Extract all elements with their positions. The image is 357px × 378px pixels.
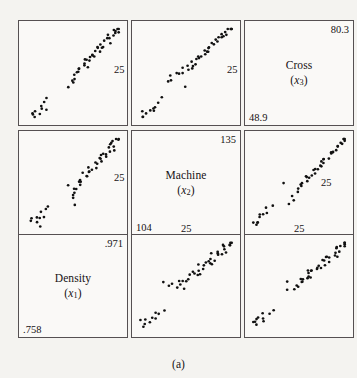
diagonal-panel-machine[interactable]: 135 Machine (x2) 104 <box>131 130 241 236</box>
data-point <box>320 160 323 163</box>
data-point <box>226 28 229 31</box>
data-point <box>301 280 304 283</box>
data-point <box>343 242 346 245</box>
data-point <box>36 221 39 224</box>
data-point <box>335 149 338 152</box>
data-point <box>45 97 48 100</box>
scatter-points-cross-density <box>19 21 127 125</box>
machine-max-tick: 135 <box>220 134 236 145</box>
data-point <box>154 312 157 315</box>
data-point <box>73 78 76 81</box>
diagonal-panel-density[interactable]: .971 Density (x1) .758 <box>18 234 128 338</box>
data-point <box>162 281 165 284</box>
data-point <box>153 109 156 112</box>
figure-caption: (a) <box>0 358 357 370</box>
data-point <box>252 321 255 324</box>
data-point <box>178 280 181 283</box>
data-point <box>320 267 323 270</box>
data-point <box>157 101 160 104</box>
density-max-tick: .971 <box>105 238 123 249</box>
data-point <box>78 67 81 70</box>
count-tick-row3-col2: 25 <box>181 223 192 234</box>
data-point <box>96 162 99 165</box>
count-tick-row1-col2: 25 <box>227 64 238 75</box>
data-point <box>262 213 265 216</box>
data-point <box>170 79 173 82</box>
data-point <box>175 72 178 75</box>
data-point <box>87 66 90 69</box>
data-point <box>89 56 92 59</box>
machine-min-tick: 104 <box>136 222 152 233</box>
data-point <box>103 39 106 42</box>
splom-grid: 80.3 Cross (x3) 48.9 135 Machine (x2) 10… <box>18 20 339 338</box>
data-point <box>83 64 86 67</box>
data-point <box>339 245 342 248</box>
data-point <box>197 263 200 266</box>
data-point <box>343 245 346 248</box>
data-point <box>257 316 260 319</box>
data-point <box>117 138 120 141</box>
data-point <box>310 174 313 177</box>
data-point <box>335 246 338 249</box>
data-point <box>43 216 46 219</box>
data-point <box>202 268 205 271</box>
data-point <box>224 31 227 34</box>
data-point <box>99 50 102 53</box>
data-point <box>305 175 308 178</box>
data-point <box>115 138 118 141</box>
data-point <box>149 321 152 324</box>
data-point <box>88 170 91 173</box>
data-point <box>196 274 199 277</box>
panel-cross-vs-density[interactable] <box>18 20 128 126</box>
data-point <box>343 138 346 141</box>
data-point <box>221 253 224 256</box>
data-point <box>181 67 184 70</box>
data-point <box>79 180 82 183</box>
data-point <box>109 42 112 45</box>
data-point <box>141 110 144 113</box>
data-point <box>184 85 187 88</box>
panel-machine-vs-density[interactable] <box>18 130 128 236</box>
data-point <box>195 58 198 61</box>
panel-density-vs-machine[interactable] <box>131 234 241 338</box>
data-point <box>199 273 202 276</box>
data-point <box>225 251 228 254</box>
diagonal-panel-cross[interactable]: 80.3 Cross (x3) 48.9 <box>244 20 354 126</box>
data-point <box>331 151 334 154</box>
data-point <box>205 261 208 264</box>
data-point <box>197 269 200 272</box>
data-point <box>43 101 46 104</box>
data-point <box>190 60 193 63</box>
count-tick-row3-col3: 25 <box>294 223 305 234</box>
data-point <box>297 187 300 190</box>
data-point <box>112 145 115 148</box>
data-point <box>151 317 154 320</box>
data-point <box>157 313 160 316</box>
data-point <box>67 184 70 187</box>
data-point <box>40 105 43 108</box>
data-point <box>72 197 75 200</box>
data-point <box>252 221 255 224</box>
data-point <box>262 317 265 320</box>
scatter-points-machine-cross <box>245 131 353 235</box>
data-point <box>295 284 298 287</box>
data-point <box>117 31 120 34</box>
panel-cross-vs-machine[interactable] <box>131 20 241 126</box>
data-point <box>142 325 145 328</box>
data-point <box>32 113 35 116</box>
data-point <box>113 149 116 152</box>
panel-density-vs-cross[interactable] <box>244 234 354 338</box>
scatterplot-matrix-figure: 80.3 Cross (x3) 48.9 135 Machine (x2) 10… <box>0 0 357 378</box>
data-point <box>36 216 39 219</box>
data-point <box>181 280 184 283</box>
data-point <box>328 261 331 264</box>
data-point <box>258 213 261 216</box>
data-point <box>272 309 275 312</box>
data-point <box>324 264 327 267</box>
variable-symbol-machine: (x2) <box>132 183 240 199</box>
data-point <box>86 175 89 178</box>
panel-machine-vs-cross[interactable] <box>244 130 354 236</box>
data-point <box>307 272 310 275</box>
data-point <box>117 28 120 31</box>
data-point <box>29 220 32 223</box>
